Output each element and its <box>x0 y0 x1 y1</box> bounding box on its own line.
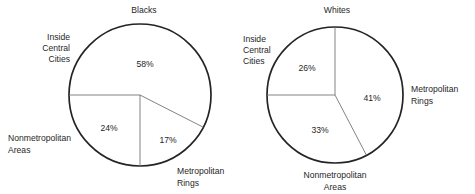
right-label-inside-central-cities-line2: Central <box>243 45 271 55</box>
left-label-inside-central-cities-line1: Inside <box>47 32 70 42</box>
right-slice-value-metropolitan-rings: 41% <box>363 93 381 103</box>
left-slice-value-metropolitan-rings: 17% <box>159 135 177 145</box>
left-label-nonmetropolitan-areas-line1: Nonmetropolitan <box>8 133 71 143</box>
right-label-nonmetropolitan-areas: Nonmetropolitan Areas <box>303 170 366 192</box>
left-label-inside-central-cities-line2: Central <box>42 43 70 53</box>
left-label-metropolitan-rings: Metropolitan Rings <box>177 166 225 188</box>
left-slice-value-inside-central-cities: 58% <box>136 59 154 69</box>
right-slice-value-nonmetropolitan-areas: 33% <box>311 125 329 135</box>
right-label-metropolitan-rings: Metropolitan Rings <box>411 84 459 106</box>
right-label-inside-central-cities-line1: Inside <box>243 34 266 44</box>
left-label-inside-central-cities: Inside Central Cities <box>42 32 70 64</box>
left-chart-title: Blacks <box>131 5 156 15</box>
right-label-nonmetropolitan-areas-line2: Areas <box>324 182 346 192</box>
right-pie-chart: Whites 26% 41% 33% Inside Central Cities… <box>243 5 459 192</box>
right-label-metropolitan-rings-line2: Rings <box>411 96 433 106</box>
pie-chart-figure: Blacks 58% 24% 17% Inside Central Cities… <box>0 0 475 194</box>
left-pie-chart: Blacks 58% 24% 17% Inside Central Cities… <box>8 5 225 188</box>
left-slice-value-nonmetropolitan-areas: 24% <box>100 123 118 133</box>
left-label-inside-central-cities-line3: Cities <box>49 54 71 64</box>
right-label-inside-central-cities-line3: Cities <box>243 56 265 66</box>
left-label-metropolitan-rings-line2: Rings <box>177 178 199 188</box>
right-label-inside-central-cities: Inside Central Cities <box>243 34 271 66</box>
right-chart-title: Whites <box>324 5 350 15</box>
left-label-nonmetropolitan-areas-line2: Areas <box>8 145 30 155</box>
left-label-metropolitan-rings-line1: Metropolitan <box>177 166 225 176</box>
left-label-nonmetropolitan-areas: Nonmetropolitan Areas <box>8 133 71 155</box>
right-slice-value-inside-central-cities: 26% <box>298 63 316 73</box>
right-label-metropolitan-rings-line1: Metropolitan <box>411 84 459 94</box>
right-label-nonmetropolitan-areas-line1: Nonmetropolitan <box>303 170 366 180</box>
